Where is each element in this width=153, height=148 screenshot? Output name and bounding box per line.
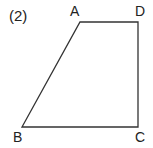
trapezoid-figure xyxy=(0,0,153,148)
vertex-label-d: D xyxy=(135,4,145,18)
vertex-label-b: B xyxy=(13,130,22,144)
vertex-label-a: A xyxy=(70,4,79,18)
vertex-label-c: C xyxy=(135,130,145,144)
trapezoid-abcd xyxy=(22,22,138,127)
